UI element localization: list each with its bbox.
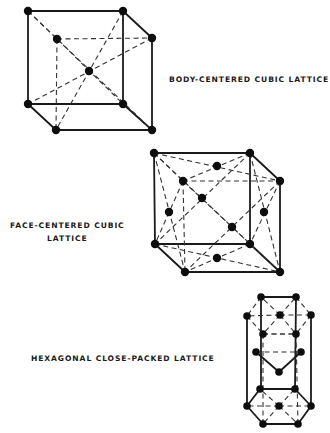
hcp-bottom-atom [291,385,299,393]
hcp-bottom-atom [307,402,315,410]
fcc-lattice [150,149,284,276]
face-center-atom [228,223,236,231]
mid-layer-edge [256,352,279,372]
hcp-mid-atom [297,348,305,356]
bcc-lattice [24,7,156,134]
hcp-bottom-atom [256,385,264,393]
corner-atom [148,126,156,134]
hcp-bottom-atom [243,402,251,410]
hcp-top-atom [307,311,315,319]
fcc-label: FACE-CENTERED CUBIC LATTICE [10,219,125,245]
hcp-bottom-atom [259,420,267,428]
hex-spoke [263,315,280,334]
hcp-mid-atom [275,368,283,376]
corner-atom [150,149,158,157]
cube-edge [28,104,56,130]
cube-edge [123,11,152,38]
cube-edge [250,153,280,181]
face-center-atom [165,208,173,216]
hcp-top-atom [276,311,284,319]
corner-atom [24,100,32,108]
corner-atom [179,177,187,185]
mid-layer-edge [279,352,301,372]
corner-atom [148,34,156,42]
bcc-label: BODY-CENTERED CUBIC LATTICE [169,75,329,84]
corner-atom [246,149,254,157]
cube-edge [154,153,155,244]
hcp-bottom-atom [294,420,302,428]
hcp-bottom-atom [275,402,283,410]
hidden-edge [57,38,152,39]
face-center-atom [198,194,206,202]
corner-atom [119,7,127,15]
hcp-top-atom [243,312,251,320]
corner-atom [276,268,284,276]
hidden-edge [183,181,185,272]
hex-spoke [279,406,298,424]
corner-atom [151,240,159,248]
hcp-top-atom [292,293,300,301]
hcp-lattice [243,293,315,428]
face-center-atom [260,208,268,216]
hidden-edge [56,39,57,130]
corner-atom [181,268,189,276]
hex-spoke [261,297,280,315]
hcp-top-atom [292,330,300,338]
corner-atom [24,7,32,15]
cube-edge [155,244,185,272]
hcp-label: HEXAGONAL CLOSE-PACKED LATTICE [31,354,215,363]
hcp-top-atom [257,293,265,301]
corner-atom [53,35,61,43]
hcp-top-atom [259,330,267,338]
face-center-atom [213,162,221,170]
fcc-label-line1: FACE-CENTERED CUBIC [10,219,125,232]
corner-atom [276,177,284,185]
face-center-atom [213,254,221,262]
hcp-mid-atom [252,348,260,356]
corner-atom [246,240,254,248]
lattice-diagrams [0,0,330,433]
corner-atom [52,126,60,134]
fcc-label-line2: LATTICE [10,232,125,245]
body-center-atom [85,67,93,75]
hex-spoke [247,315,280,316]
corner-atom [119,100,127,108]
